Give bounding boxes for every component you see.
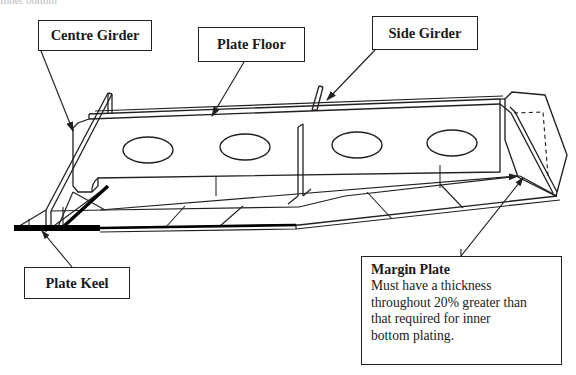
callout-plate-floor-title: Plate Floor bbox=[217, 36, 286, 53]
lightening-hole bbox=[332, 132, 382, 158]
tank-top-plating bbox=[89, 96, 503, 119]
callout-side-girder-title: Side Girder bbox=[389, 25, 462, 42]
callout-centre-girder-title: Centre Girder bbox=[51, 27, 140, 44]
callout-margin-plate-line1: Must have a thickness bbox=[371, 278, 553, 295]
callout-plate-floor: Plate Floor bbox=[198, 27, 305, 62]
callout-margin-plate-line2: throughout 20% greater than bbox=[371, 295, 553, 312]
callout-margin-plate-title: Margin Plate bbox=[371, 261, 553, 278]
side-girder-plate bbox=[312, 86, 323, 110]
diagram-canvas: Inner bottom Centre Girder Plate Floor S… bbox=[0, 0, 576, 375]
leader-centre-girder bbox=[41, 51, 73, 131]
lightening-hole bbox=[220, 134, 270, 160]
lightening-holes bbox=[123, 130, 477, 163]
leader-lines bbox=[41, 50, 523, 267]
callout-margin-plate-line3: that required for inner bbox=[371, 311, 553, 328]
callout-plate-keel: Plate Keel bbox=[24, 267, 130, 299]
lightening-hole bbox=[123, 137, 173, 163]
lightening-hole bbox=[427, 130, 477, 156]
callout-side-girder: Side Girder bbox=[372, 16, 478, 50]
callout-plate-keel-title: Plate Keel bbox=[45, 275, 108, 292]
callout-margin-plate: Margin Plate Must have a thickness throu… bbox=[361, 256, 562, 365]
left-end-frame bbox=[16, 192, 105, 229]
callout-centre-girder: Centre Girder bbox=[38, 20, 152, 51]
leader-side-girder bbox=[327, 50, 375, 100]
margin-plate-assembly bbox=[500, 92, 567, 196]
leader-margin-plate-b bbox=[461, 178, 523, 256]
clipped-top-text: Inner bottom bbox=[0, 0, 120, 6]
plate-floor-transverse bbox=[288, 124, 311, 204]
callout-margin-plate-line4: bottom plating. bbox=[371, 328, 553, 345]
leader-plate-keel bbox=[42, 231, 72, 267]
double-bottom-assembly bbox=[16, 86, 567, 232]
plate-keel-bar bbox=[14, 186, 296, 228]
